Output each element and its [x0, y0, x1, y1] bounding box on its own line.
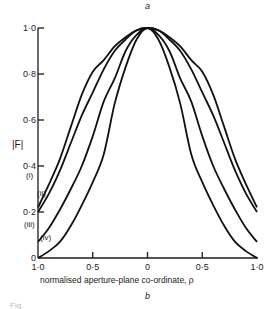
curve-i: [38, 28, 257, 207]
y-tick-label: 0·8: [23, 69, 36, 79]
y-axis-label: |F|: [12, 139, 23, 150]
x-tick-label: 0: [145, 262, 150, 272]
curve-label: (ii): [37, 189, 46, 198]
x-tick-label: 1·0: [250, 262, 263, 272]
curve-label: (iv): [40, 233, 51, 242]
x-axis-label: normalised aperture-plane co-ordinate, ρ: [40, 275, 194, 285]
panel-label-b: b: [145, 291, 150, 301]
panel-label-a: a: [145, 1, 150, 11]
curve-label: (iii): [24, 220, 35, 229]
x-tick-label: 1·0: [31, 262, 44, 272]
y-tick-label: 0·2: [23, 207, 36, 217]
figure-caption-fragment: Fig.: [10, 301, 23, 309]
curve-ii: [38, 28, 257, 212]
curve-label: (i): [26, 171, 33, 180]
y-tick-label: 0·4: [23, 161, 36, 171]
x-axis: 1·00·500·51·0: [31, 252, 263, 272]
y-tick-label: 0·6: [23, 115, 36, 125]
curve-iii: [38, 28, 257, 242]
x-tick-label: 0·5: [196, 262, 209, 272]
aperture-taper-chart: a 00·20·40·60·81·0 |F| 1·00·500·51·0 nor…: [0, 0, 271, 309]
curves: [38, 28, 257, 258]
x-tick-label: 0·5: [86, 262, 99, 272]
y-tick-label: 1·0: [23, 23, 36, 33]
